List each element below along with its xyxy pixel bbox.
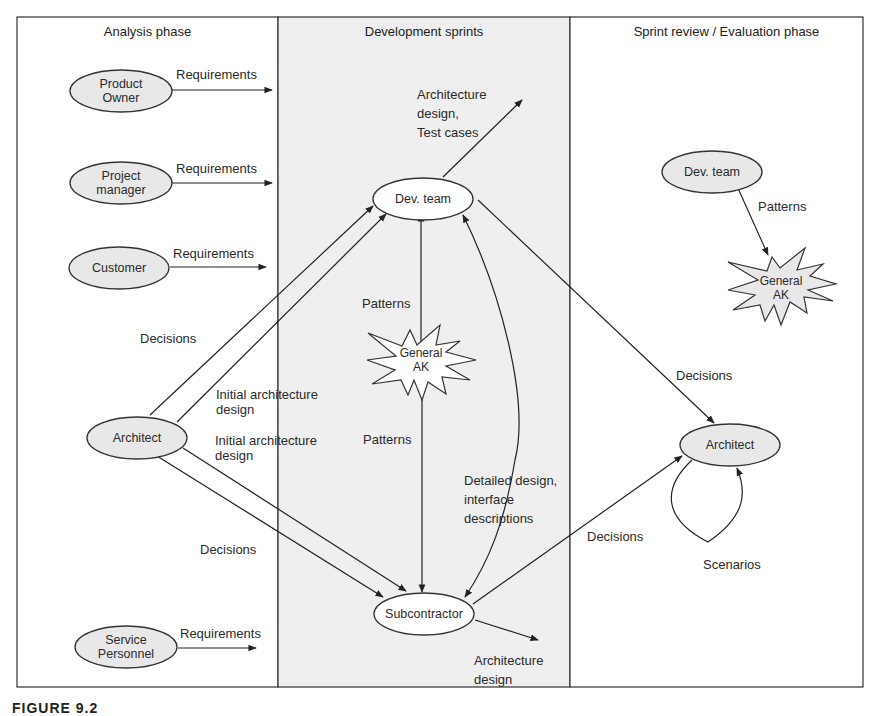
edge-label-right-patterns: Patterns <box>758 199 806 214</box>
label-subcontractor: Subcontractor <box>374 593 474 635</box>
edge-label-dev-arch-test: Architecture design, Test cases <box>417 85 486 142</box>
edge-label-scenarios: Scenarios <box>703 557 761 572</box>
edge-label-arch-initial-2: Initial architecture design <box>215 433 317 463</box>
label-service-personnel: Service Personnel <box>76 626 176 668</box>
label-dev-team-right: Dev. team <box>662 151 762 193</box>
edge-label-po-req: Requirements <box>176 67 257 82</box>
edge-label-sub-decisions-right: Decisions <box>587 529 643 544</box>
lane-title-development: Development sprints <box>278 24 570 39</box>
label-product-owner: Product Owner <box>71 70 171 112</box>
figure-caption: FIGURE 9.2 <box>12 700 98 716</box>
edge-label-dev-decisions-right: Decisions <box>676 368 732 383</box>
label-dev-team-mid: Dev. team <box>373 178 473 220</box>
lane-analysis <box>17 17 278 687</box>
lane-title-analysis: Analysis phase <box>17 24 278 39</box>
edge-label-detailed-design: Detailed design, interface descriptions <box>464 471 557 528</box>
lane-title-review: Sprint review / Evaluation phase <box>580 24 873 39</box>
label-customer: Customer <box>69 247 169 289</box>
lane-review <box>570 17 863 687</box>
edge-label-patterns-up: Patterns <box>362 296 410 311</box>
edge-label-arch-initial-1: Initial architecture design <box>216 387 318 417</box>
edge-label-arch-decisions-up: Decisions <box>140 331 196 346</box>
edge-label-sp-req: Requirements <box>180 626 261 641</box>
label-architect-right: Architect <box>680 424 780 466</box>
label-architect-left: Architect <box>87 417 187 459</box>
edge-label-cust-req: Requirements <box>173 246 254 261</box>
label-project-manager: Project manager <box>71 162 171 204</box>
edge-label-arch-decisions-down: Decisions <box>200 542 256 557</box>
label-general-ak-right: General AK <box>741 271 821 305</box>
edge-label-patterns-down: Patterns <box>363 432 411 447</box>
label-general-ak-mid: General AK <box>381 343 461 377</box>
edge-label-sub-arch-design: Architecture design <box>474 651 543 689</box>
edge-label-pm-req: Requirements <box>176 161 257 176</box>
